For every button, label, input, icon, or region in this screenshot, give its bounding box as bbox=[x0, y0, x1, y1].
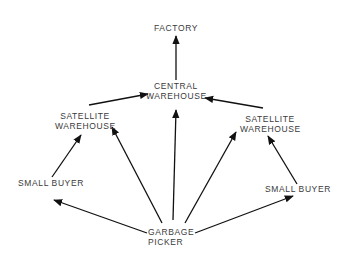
edge-picker-to-satR bbox=[185, 132, 236, 223]
node-satellite-warehouse-left: SATELLITE WAREHOUSE bbox=[55, 111, 115, 131]
edge-picker-to-central bbox=[173, 110, 176, 220]
node-satellite-warehouse-right: SATELLITE WAREHOUSE bbox=[240, 114, 300, 134]
node-central-warehouse: CENTRAL WAREHOUSE bbox=[146, 81, 206, 101]
edge-buyerL-to-satL bbox=[52, 135, 81, 177]
node-satL-line2: WAREHOUSE bbox=[55, 121, 115, 131]
node-satL-line1: SATELLITE bbox=[55, 111, 115, 121]
node-satR-line1: SATELLITE bbox=[240, 114, 300, 124]
edge-satL-to-central bbox=[89, 94, 148, 105]
edge-satR-to-central bbox=[205, 98, 263, 108]
node-central-line2: WAREHOUSE bbox=[146, 91, 206, 101]
node-satR-line2: WAREHOUSE bbox=[240, 124, 300, 134]
edge-picker-to-buyerR bbox=[195, 196, 293, 233]
edge-picker-to-buyerL bbox=[54, 200, 147, 233]
node-small-buyer-left: SMALL BUYER bbox=[18, 178, 84, 188]
node-picker-line2: PICKER bbox=[148, 237, 198, 247]
node-picker-line1: GARBAGE bbox=[148, 227, 198, 237]
edge-buyerR-to-satR bbox=[268, 136, 297, 184]
edge-picker-to-satL bbox=[112, 127, 162, 223]
node-small-buyer-right: SMALL BUYER bbox=[265, 184, 331, 194]
node-central-line1: CENTRAL bbox=[146, 81, 206, 91]
node-factory: FACTORY bbox=[150, 23, 202, 33]
node-garbage-picker: GARBAGE PICKER bbox=[148, 227, 198, 247]
